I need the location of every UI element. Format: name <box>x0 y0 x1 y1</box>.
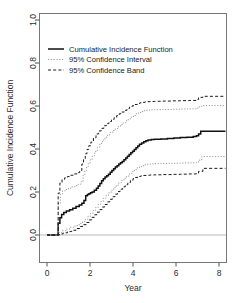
y-tick-label: 0.6 <box>28 100 38 112</box>
y-tick-label: 0.0 <box>28 229 38 241</box>
series-path <box>47 157 225 235</box>
x-tick-label: 4 <box>131 268 136 278</box>
series-path <box>47 131 225 235</box>
x-axis-title: Year <box>124 283 141 293</box>
legend-label: 95% Confidence Band <box>69 66 145 75</box>
y-tick-label: 1.0 <box>28 14 38 26</box>
legend-label: 95% Confidence Interval <box>69 55 152 64</box>
x-tick-label: 6 <box>174 268 179 278</box>
y-tick-label: 0.2 <box>28 186 38 198</box>
series-path <box>47 96 225 235</box>
x-tick-label: 8 <box>217 268 222 278</box>
chart-container: 024680.00.20.40.60.81.0YearCumulative In… <box>0 0 242 303</box>
x-tick-label: 0 <box>45 268 50 278</box>
series-path <box>47 168 225 235</box>
y-tick-label: 0.8 <box>28 57 38 69</box>
cumulative-incidence-plot: 024680.00.20.40.60.81.0YearCumulative In… <box>0 0 242 303</box>
x-tick-label: 2 <box>88 268 93 278</box>
y-axis-title: Cumulative Incidence Function <box>5 80 15 197</box>
legend-label: Cumulative Incidence Function <box>69 45 173 54</box>
y-tick-label: 0.4 <box>28 143 38 155</box>
series-path <box>47 106 225 235</box>
